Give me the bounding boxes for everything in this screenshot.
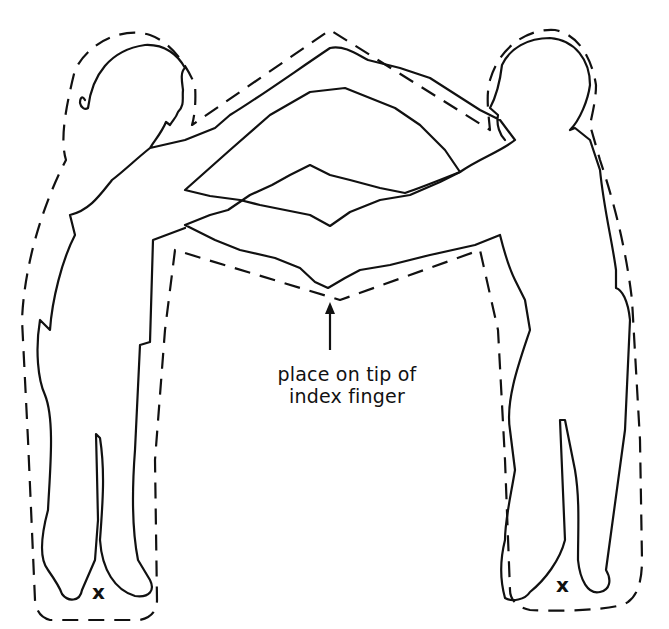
instruction-label: place on tip of index finger xyxy=(262,363,432,407)
right-foot-x-mark: x xyxy=(556,573,569,597)
left-foot-x-mark: x xyxy=(92,580,105,604)
left-child-outline xyxy=(38,38,630,600)
dashed-cut-line-outer xyxy=(22,30,642,620)
instruction-line-1: place on tip of xyxy=(262,363,432,385)
arrow-head-icon xyxy=(325,302,335,314)
arch-window-outline xyxy=(185,88,460,226)
instruction-line-2: index finger xyxy=(262,385,432,407)
cutout-diagram xyxy=(0,0,669,629)
